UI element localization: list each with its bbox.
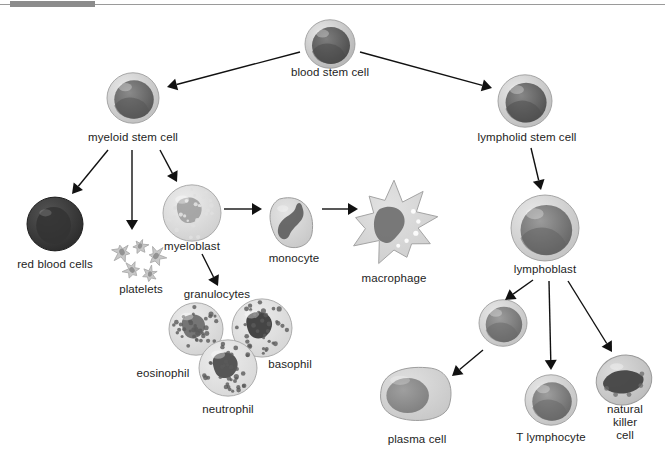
top-divider-rule: [0, 4, 665, 5]
cell-t-lymphocyte: [517, 366, 585, 434]
cell-macrophage: [344, 174, 444, 274]
label-plasma-cell: plasma cell: [388, 433, 447, 446]
label-monocyte: monocyte: [269, 252, 320, 265]
arrow-myeloblast-to-monocyte: [224, 203, 262, 215]
cell-myeloid-stem-cell: [99, 64, 167, 132]
arrow-lymphoblast-to-nk: [568, 281, 612, 352]
label-basophil: basophil: [268, 358, 312, 371]
cell-lymphoblast: [503, 186, 587, 270]
label-eosinophil: eosinophil: [137, 367, 190, 380]
arrow-bsc-to-lymphoid: [360, 52, 492, 91]
top-divider-tab: [10, 1, 95, 7]
arrow-myeloid-to-platelets: [126, 150, 138, 230]
cell-neutrophil: [191, 331, 265, 405]
label-lymphoid-stem-cell: lympholid stem cell: [477, 131, 576, 144]
cell-myeloblast: [155, 176, 229, 250]
diagram-canvas: blood stem cell myeloid stem cell lympho…: [0, 0, 665, 468]
label-natural-killer-cell-line2: killer cell: [605, 416, 645, 442]
arrow-lymphoid-to-lymphoblast: [531, 148, 545, 190]
cell-b-lymphocyte: [471, 291, 535, 355]
label-macrophage: macrophage: [362, 272, 427, 285]
label-natural-killer-cell-line1: natural: [607, 403, 643, 416]
cell-lymphoid-stem-cell: [490, 66, 560, 136]
cell-monocyte: [258, 186, 330, 258]
label-red-blood-cells: red blood cells: [17, 258, 93, 271]
arrow-lymphoblast-to-t: [545, 281, 557, 370]
cell-plasma-cell: [370, 348, 462, 440]
label-neutrophil: neutrophil: [202, 403, 254, 416]
label-blood-stem-cell: blood stem cell: [291, 66, 369, 79]
arrow-bsc-to-myeloid: [167, 52, 300, 90]
label-granulocytes: granulocytes: [184, 288, 250, 301]
label-myeloblast: myeloblast: [164, 240, 220, 253]
label-myeloid-stem-cell: myeloid stem cell: [88, 131, 178, 144]
arrow-myeloblast-to-granulo: [202, 254, 219, 286]
label-lymphoblast: lymphoblast: [514, 263, 576, 276]
label-t-lymphocyte: T lymphocyte: [516, 431, 585, 444]
cell-red-blood-cells: [19, 188, 91, 260]
label-platelets: platelets: [119, 283, 163, 296]
